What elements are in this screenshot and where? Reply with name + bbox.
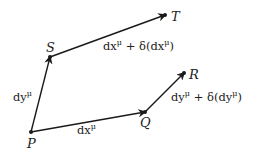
parallelogram-diagram: P Q R S T dyμ dxμ dxμ + δ(dxμ) dyμ + δ(d… xyxy=(0,0,258,156)
edge-label-dx: dxμ xyxy=(77,122,96,137)
point-Q-dot xyxy=(143,110,147,114)
point-label-R: R xyxy=(188,67,199,82)
edge-label-dy: dyμ xyxy=(13,89,32,104)
edge-P-S xyxy=(31,57,50,132)
edge-label-dy-plus-delta: dyμ + δ(dyμ) xyxy=(171,89,242,104)
point-label-P: P xyxy=(26,136,36,151)
point-S-dot xyxy=(48,55,52,59)
point-P-dot xyxy=(29,130,33,134)
edge-label-dx-plus-delta: dxμ + δ(dxμ) xyxy=(103,38,174,53)
point-label-T: T xyxy=(171,9,181,24)
point-R-dot xyxy=(182,71,186,75)
point-T-dot xyxy=(163,13,167,17)
point-label-S: S xyxy=(46,40,55,55)
point-label-Q: Q xyxy=(140,115,151,130)
